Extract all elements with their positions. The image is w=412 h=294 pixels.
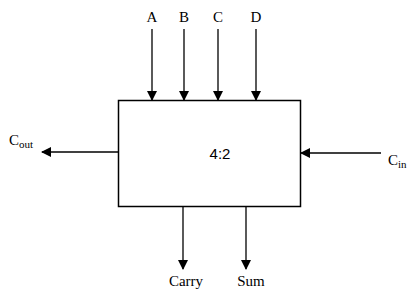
output-cout: Cout — [9, 132, 118, 152]
svg-text:Cin: Cin — [388, 152, 407, 170]
input-c: C — [213, 9, 223, 100]
svg-text:D: D — [251, 9, 262, 25]
svg-text:C: C — [213, 9, 223, 25]
input-a: A — [147, 9, 158, 100]
block-label: 4:2 — [210, 145, 231, 162]
svg-text:Carry: Carry — [169, 273, 204, 289]
input-cin: Cin — [301, 152, 407, 170]
svg-text:A: A — [147, 9, 158, 25]
output-sum: Sum — [237, 207, 265, 289]
compressor-diagram: 4:2 A B C D Cin Cout Carry Sum — [0, 0, 412, 294]
svg-text:Sum: Sum — [237, 273, 265, 289]
svg-text:B: B — [179, 9, 189, 25]
output-carry: Carry — [169, 207, 204, 289]
svg-text:Cout: Cout — [9, 132, 33, 150]
input-b: B — [179, 9, 189, 100]
input-d: D — [251, 9, 262, 100]
